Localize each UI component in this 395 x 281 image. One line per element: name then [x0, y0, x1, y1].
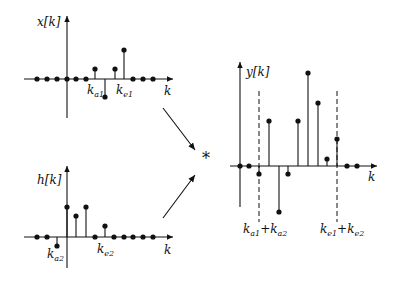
sample-dot-icon	[73, 76, 78, 81]
plot-y: y[k]kka1+ka2ke1+ke2	[230, 62, 377, 238]
sample-dot-icon	[34, 76, 39, 81]
sample-dot-icon	[121, 234, 126, 239]
signal-label: y[k]	[245, 65, 270, 79]
sample-dot-icon	[266, 118, 271, 123]
stem-sample	[83, 204, 88, 237]
stem-sample	[54, 76, 59, 81]
stem-sample	[92, 66, 97, 79]
sample-dot-icon	[315, 100, 320, 105]
index-annotation: ke1	[116, 83, 133, 99]
sample-dot-icon	[237, 163, 242, 168]
stem-sample	[54, 237, 59, 249]
stem-sample	[73, 76, 78, 81]
stem-sample	[44, 76, 49, 81]
stem-sample	[83, 76, 88, 81]
sample-dot-icon	[54, 76, 59, 81]
sample-dot-icon	[34, 234, 39, 239]
stem-sample	[237, 163, 242, 168]
stem-sample	[140, 76, 145, 81]
sample-dot-icon	[324, 156, 329, 161]
sample-dot-icon	[246, 163, 251, 168]
stem-sample	[92, 234, 97, 239]
stem-sample	[130, 76, 135, 81]
stem-sample	[34, 76, 39, 81]
axis-k-label: k	[164, 243, 171, 257]
stem-sample	[150, 76, 155, 81]
index-annotation: ke1+ke2	[320, 222, 364, 238]
stem-sample	[34, 234, 39, 239]
sample-dot-icon	[73, 213, 78, 218]
convolution-operator: *	[202, 149, 210, 168]
sample-dot-icon	[285, 171, 290, 176]
sample-dot-icon	[92, 234, 97, 239]
plot-h: h[k]kka2ke2	[24, 166, 173, 268]
axis-k-label: k	[164, 84, 171, 98]
index-annotation: ke2	[97, 242, 114, 258]
stem-sample	[102, 223, 107, 237]
sample-dot-icon	[130, 76, 135, 81]
sample-dot-icon	[121, 47, 126, 52]
convolution-diagram: x[k]kka1ke1h[k]kka2ke2y[k]kka1+ka2ke1+ke…	[0, 0, 395, 281]
diagram-canvas: x[k]kka1ke1h[k]kka2ke2y[k]kka1+ka2ke1+ke…	[0, 0, 395, 281]
sample-dot-icon	[305, 70, 310, 75]
sample-dot-icon	[140, 234, 145, 239]
sample-dot-icon	[344, 163, 349, 168]
stem-sample	[295, 118, 300, 166]
sample-dot-icon	[83, 204, 88, 209]
convolution-arrow-icon	[163, 108, 195, 150]
stem-sample	[73, 213, 78, 237]
sample-dot-icon	[112, 66, 117, 71]
sample-dot-icon	[150, 76, 155, 81]
stem-sample	[64, 204, 69, 237]
sample-dot-icon	[150, 234, 155, 239]
stem-sample	[112, 66, 117, 79]
signal-label: h[k]	[37, 173, 62, 187]
stem-sample	[64, 76, 69, 81]
sample-dot-icon	[64, 76, 69, 81]
sample-dot-icon	[111, 234, 116, 239]
stem-sample	[324, 156, 329, 166]
stem-sample	[246, 163, 251, 168]
stem-sample	[256, 166, 261, 177]
stem-sample	[150, 234, 155, 239]
sample-dot-icon	[102, 223, 107, 228]
stem-sample	[276, 166, 281, 215]
stem-sample	[266, 118, 271, 166]
convolution-arrow-icon	[163, 175, 195, 218]
stem-sample	[305, 70, 310, 166]
sample-dot-icon	[295, 118, 300, 123]
sample-dot-icon	[83, 76, 88, 81]
stem-sample	[111, 234, 116, 239]
plot-x: x[k]kka1ke1	[24, 15, 173, 118]
sample-dot-icon	[276, 209, 281, 214]
signal-label: x[k]	[37, 15, 61, 29]
stem-sample	[44, 234, 49, 239]
index-annotation: ka2	[47, 247, 64, 263]
axis-k-label: k	[368, 170, 375, 184]
index-annotation: ka1	[87, 83, 104, 99]
stem-sample	[121, 47, 126, 79]
stem-sample	[140, 234, 145, 239]
sample-dot-icon	[64, 204, 69, 209]
sample-dot-icon	[140, 76, 145, 81]
stem-sample	[121, 234, 126, 239]
sample-dot-icon	[92, 66, 97, 71]
sample-dot-icon	[44, 234, 49, 239]
sample-dot-icon	[130, 234, 135, 239]
index-annotation: ka1+ka2	[243, 222, 287, 238]
stem-sample	[354, 163, 359, 168]
stem-sample	[130, 234, 135, 239]
stem-sample	[334, 136, 339, 166]
stem-sample	[285, 166, 290, 177]
sample-dot-icon	[334, 136, 339, 141]
sample-dot-icon	[256, 171, 261, 176]
stem-sample	[315, 100, 320, 166]
stem-sample	[344, 163, 349, 168]
plots-layer: x[k]kka1ke1h[k]kka2ke2y[k]kka1+ka2ke1+ke…	[24, 15, 377, 268]
sample-dot-icon	[354, 163, 359, 168]
sample-dot-icon	[44, 76, 49, 81]
arrows-layer	[163, 108, 195, 218]
sample-dot-icon	[54, 243, 59, 248]
